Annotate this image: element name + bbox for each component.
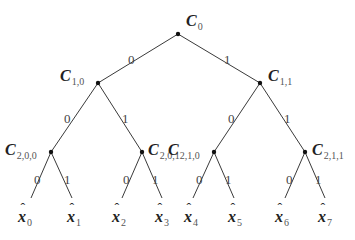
edge: [214, 83, 260, 152]
root-node: [176, 32, 180, 36]
edge-bit-label: 1: [284, 111, 291, 126]
tree-node: [303, 150, 307, 154]
tree-node: [49, 150, 53, 154]
edge-bit-label: 0: [64, 111, 71, 126]
hat-accent: ˆ: [278, 201, 283, 216]
hat-accent: ˆ: [115, 201, 120, 216]
edge-bit-label: 1: [152, 172, 159, 187]
node-label: C1,1: [268, 67, 292, 87]
edge-bit-label: 0: [286, 172, 293, 187]
tree-node: [258, 81, 262, 85]
edge-root-left: [98, 34, 178, 83]
edge: [260, 83, 305, 152]
tree-labels: C0C1,0C1,1C2,0,0C2,0,1C2,1,0C2,1,1x0ˆx1ˆ…: [5, 12, 344, 228]
edge-bit-label: 1: [122, 111, 129, 126]
node-label: C2,1,1: [312, 141, 344, 161]
edge-bit-label: 0: [228, 111, 235, 126]
edge-root-right: [178, 34, 260, 83]
node-label: C1,0: [60, 67, 84, 87]
tree-edges: [31, 34, 325, 198]
edge-bit-label: 0: [123, 172, 130, 187]
edge-bit-label: 1: [224, 52, 231, 67]
edge: [98, 83, 142, 152]
tree-node: [140, 150, 144, 154]
edge-bit-label: 1: [64, 172, 71, 187]
edge-bit-label: 1: [225, 172, 232, 187]
hat-accent: ˆ: [158, 201, 163, 216]
edge-bit-label: 0: [34, 172, 41, 187]
node-label: C2,0,0: [5, 141, 37, 161]
hat-accent: ˆ: [21, 201, 26, 216]
tree-node: [212, 150, 216, 154]
hat-accent: ˆ: [231, 201, 236, 216]
binary-tree-diagram: C0C1,0C1,1C2,0,0C2,0,1C2,1,0C2,1,1x0ˆx1ˆ…: [0, 0, 355, 240]
tree-node: [96, 81, 100, 85]
hat-accent: ˆ: [187, 201, 192, 216]
edge-bit-label: 0: [196, 172, 203, 187]
tree-nodes: [49, 32, 307, 154]
hat-accent: ˆ: [70, 201, 75, 216]
edge-bit-label: 1: [315, 172, 322, 187]
hat-accent: ˆ: [321, 201, 326, 216]
edge-bit-label: 0: [128, 52, 135, 67]
edge: [51, 83, 98, 152]
root-label: C0: [186, 12, 203, 32]
